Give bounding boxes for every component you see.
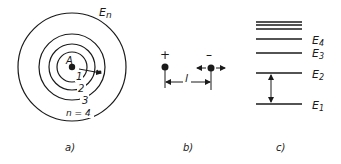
negative-sign: – — [206, 48, 212, 62]
label-E1: E1 — [312, 99, 324, 113]
orbit-label-2: 2 — [78, 83, 84, 94]
orbit-label-n4: n = 4 — [66, 108, 91, 118]
nucleus-label: A — [65, 55, 73, 66]
label-E3: E3 — [312, 47, 324, 61]
caption-c: c) — [276, 142, 285, 153]
orbit-label-1: 1 — [76, 71, 82, 82]
label-E4: E4 — [312, 34, 324, 48]
panel-b-dipole — [162, 64, 226, 91]
caption-b: b) — [183, 142, 193, 153]
negative-charge — [208, 65, 215, 72]
electron-dot — [99, 71, 102, 74]
panel-c-energy-levels — [256, 22, 302, 104]
distance-label: l — [185, 72, 188, 85]
caption-a: a) — [65, 142, 75, 153]
orbit-label-3: 3 — [82, 95, 88, 106]
diagram-canvas: A 1 2 3 n = 4 En a) + – l b) E4 E3 E2 E1… — [0, 0, 341, 164]
label-E2: E2 — [312, 68, 324, 82]
positive-charge — [162, 64, 169, 71]
positive-sign: + — [160, 48, 170, 62]
